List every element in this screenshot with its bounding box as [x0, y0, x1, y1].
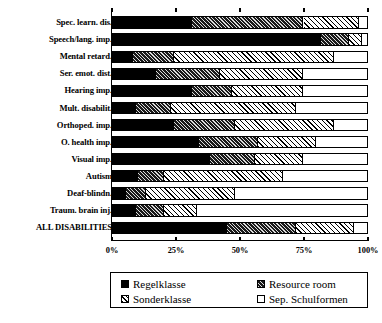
y-axis-category-label: Traum. brain inj.	[0, 202, 112, 219]
bar-segment	[304, 17, 360, 27]
bar-segment	[164, 171, 283, 181]
bar-segment	[113, 205, 136, 215]
bar-segment	[232, 86, 303, 96]
x-axis-tick	[367, 237, 368, 241]
y-axis-category-label: Hearing imp.	[0, 82, 112, 99]
bar-segment	[316, 137, 367, 147]
bar-segment	[334, 120, 367, 130]
x-axis-tick-label: 100%	[358, 246, 379, 255]
bar-segment	[113, 120, 174, 130]
chart-row: Mental retard.	[0, 48, 382, 65]
stacked-bar	[112, 119, 368, 131]
x-axis-tick	[303, 8, 304, 12]
x-axis-tick	[367, 8, 368, 12]
bar-segment	[136, 205, 164, 215]
bar-segment	[359, 17, 367, 27]
bar-segment	[113, 86, 192, 96]
bar-segment	[210, 154, 256, 164]
bar-segment	[304, 69, 368, 79]
bar-segment	[171, 103, 295, 113]
y-axis-category-label: Deaf-blindn.	[0, 185, 112, 202]
y-axis-category-label: ALL DISABILITIES	[0, 219, 112, 236]
y-axis-category-label: Mult. disabilit.	[0, 100, 112, 117]
x-axis-tick-label: 25%	[168, 246, 185, 255]
y-axis-category-label: Mental retard.	[0, 48, 112, 65]
x-axis-tick-labels: 0%25%50%75%100%	[0, 246, 382, 260]
bar-segment	[197, 205, 367, 215]
bar-segment	[113, 52, 133, 62]
y-axis-category-label: O. health imp.	[0, 134, 112, 151]
bar-segment	[321, 34, 349, 44]
bar-segment	[304, 154, 368, 164]
stacked-bar	[112, 136, 368, 148]
bar-segment	[192, 86, 233, 96]
legend-item: Regelklasse	[121, 278, 186, 290]
chart-row: Orthoped. imp.	[0, 117, 382, 134]
chart-row: Visual imp.	[0, 151, 382, 168]
y-axis-category-label: Autism	[0, 168, 112, 185]
chart-row: Spec. learn. dis.	[0, 14, 382, 31]
legend-swatch-icon	[257, 280, 265, 288]
bar-segment	[362, 34, 367, 44]
plot-area: Spec. learn. dis.Speech/lang. imp.Mental…	[0, 8, 382, 248]
stacked-bar	[112, 85, 368, 97]
y-axis-category-label: Visual imp.	[0, 151, 112, 168]
bar-segment	[220, 69, 304, 79]
stacked-bar	[112, 68, 368, 80]
bar-segment	[133, 52, 174, 62]
stacked-bar	[112, 153, 368, 165]
bar-segment	[235, 188, 367, 198]
bar-segment	[113, 103, 136, 113]
stacked-bar-chart: Spec. learn. dis.Speech/lang. imp.Mental…	[0, 0, 382, 323]
stacked-bar	[112, 170, 368, 182]
bar-segment	[138, 171, 163, 181]
bar-segment	[113, 69, 156, 79]
bar-segment	[258, 137, 316, 147]
chart-row: Speech/lang. imp.	[0, 31, 382, 48]
x-axis-tick	[303, 237, 304, 241]
bar-segment	[199, 137, 257, 147]
bar-segment	[146, 188, 235, 198]
bar-segment	[156, 69, 220, 79]
y-axis-category-label: Spec. learn. dis.	[0, 14, 112, 31]
y-axis-category-label: Ser. emot. dist.	[0, 65, 112, 82]
bar-segment	[354, 223, 367, 233]
bar-segment	[113, 154, 210, 164]
chart-row: Deaf-blindn.	[0, 185, 382, 202]
bar-segment	[349, 34, 362, 44]
stacked-bar	[112, 102, 368, 114]
legend-swatch-icon	[121, 295, 129, 303]
x-axis-tick-label: 50%	[232, 246, 249, 255]
legend-label: Regelklasse	[133, 278, 186, 290]
legend-label: Resource room	[269, 278, 336, 290]
chart-row: Autism	[0, 168, 382, 185]
legend-item: Sonderklasse	[121, 293, 191, 305]
bar-segment	[113, 17, 192, 27]
x-axis-tick	[239, 8, 240, 12]
x-axis-tick-label: 75%	[296, 246, 313, 255]
legend-swatch-icon	[121, 280, 129, 288]
legend-items: RegelklasseResource roomSonderklasseSep.…	[111, 275, 367, 307]
x-axis-tick	[175, 237, 176, 241]
bar-segment	[174, 120, 235, 130]
legend-label: Sep. Schulformen	[269, 293, 348, 305]
bar-segment	[334, 52, 367, 62]
x-axis-tick	[111, 8, 112, 12]
chart-row: Ser. emot. dist.	[0, 65, 382, 82]
x-axis-tick	[239, 237, 240, 241]
stacked-bar	[112, 187, 368, 199]
stacked-bar	[112, 222, 368, 234]
legend-item: Sep. Schulformen	[257, 293, 348, 305]
bar-segment	[296, 223, 354, 233]
bar-segment	[113, 137, 199, 147]
bar-segment	[113, 223, 227, 233]
chart-row: Traum. brain inj.	[0, 202, 382, 219]
x-axis-tick	[111, 237, 112, 241]
x-axis-tick-label: 0%	[106, 246, 119, 255]
bar-segment	[136, 103, 172, 113]
bar-segment	[113, 171, 138, 181]
bar-segment	[255, 154, 303, 164]
bar-segment	[227, 223, 296, 233]
chart-row: ALL DISABILITIES	[0, 219, 382, 236]
legend-item: Resource room	[257, 278, 336, 290]
